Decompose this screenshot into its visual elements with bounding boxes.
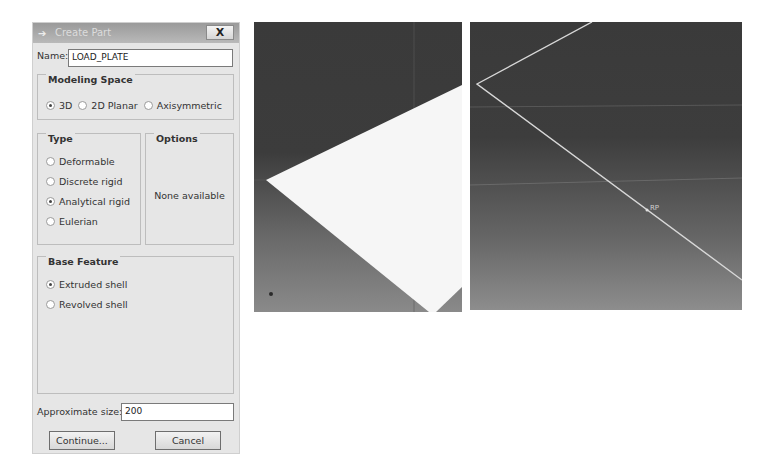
radio-revolved-shell[interactable]: Revolved shell	[46, 299, 128, 310]
radio-2d-planar[interactable]: 2D Planar	[78, 100, 137, 111]
shaded-plate-icon	[254, 22, 462, 312]
name-label: Name:	[37, 50, 68, 61]
radio-unselected-icon	[144, 101, 153, 110]
arrow-icon: ➔	[38, 28, 46, 39]
radio-label: Revolved shell	[59, 299, 128, 310]
options-title: Options	[154, 133, 200, 144]
radio-unselected-icon	[78, 101, 87, 110]
options-group: Options None available	[145, 133, 234, 245]
base-feature-title: Base Feature	[46, 256, 120, 267]
radio-axisymmetric[interactable]: Axisymmetric	[144, 100, 222, 111]
cancel-button[interactable]: Cancel	[155, 431, 221, 450]
approx-size-label: Approximate size:	[37, 406, 122, 417]
radio-label: 3D	[59, 100, 72, 111]
options-message: None available	[146, 190, 233, 201]
modeling-space-group: Modeling Space 3D 2D Planar Axisymmetric	[37, 74, 234, 120]
radio-label: Axisymmetric	[157, 100, 222, 111]
wireframe-plate-icon	[470, 22, 742, 310]
radio-unselected-icon	[46, 300, 55, 309]
continue-button[interactable]: Continue...	[49, 431, 115, 450]
radio-label: Discrete rigid	[59, 176, 123, 187]
radio-discrete-rigid[interactable]: Discrete rigid	[46, 176, 130, 187]
radio-label: Deformable	[59, 156, 115, 167]
radio-extruded-shell[interactable]: Extruded shell	[46, 279, 128, 290]
radio-unselected-icon	[46, 157, 55, 166]
name-input[interactable]: LOAD_PLATE	[68, 49, 233, 67]
radio-unselected-icon	[46, 217, 55, 226]
approx-size-input[interactable]: 200	[121, 403, 234, 421]
dialog-titlebar[interactable]: ➔ Create Part X	[33, 23, 239, 43]
modeling-space-title: Modeling Space	[46, 74, 135, 85]
base-feature-group: Base Feature Extruded shell Revolved she…	[37, 256, 234, 394]
radio-selected-icon	[46, 197, 55, 206]
reference-point-label: RP	[650, 204, 659, 212]
radio-label: Analytical rigid	[59, 196, 130, 207]
radio-label: Eulerian	[59, 216, 98, 227]
radio-selected-icon	[46, 280, 55, 289]
dialog-title: Create Part	[55, 27, 111, 38]
radio-deformable[interactable]: Deformable	[46, 156, 130, 167]
radio-eulerian[interactable]: Eulerian	[46, 216, 130, 227]
radio-3d[interactable]: 3D	[46, 100, 72, 111]
radio-unselected-icon	[46, 177, 55, 186]
close-button[interactable]: X	[206, 25, 234, 40]
viewport-wireframe[interactable]: RP	[470, 22, 742, 310]
viewport-shaded[interactable]	[254, 22, 462, 312]
radio-label: Extruded shell	[59, 279, 127, 290]
create-part-dialog: ➔ Create Part X Name: LOAD_PLATE Modelin…	[32, 22, 240, 454]
radio-selected-icon	[46, 101, 55, 110]
type-title: Type	[46, 133, 75, 144]
radio-label: 2D Planar	[91, 100, 137, 111]
type-group: Type Deformable Discrete rigid Analytica…	[37, 133, 141, 245]
radio-analytical-rigid[interactable]: Analytical rigid	[46, 196, 130, 207]
